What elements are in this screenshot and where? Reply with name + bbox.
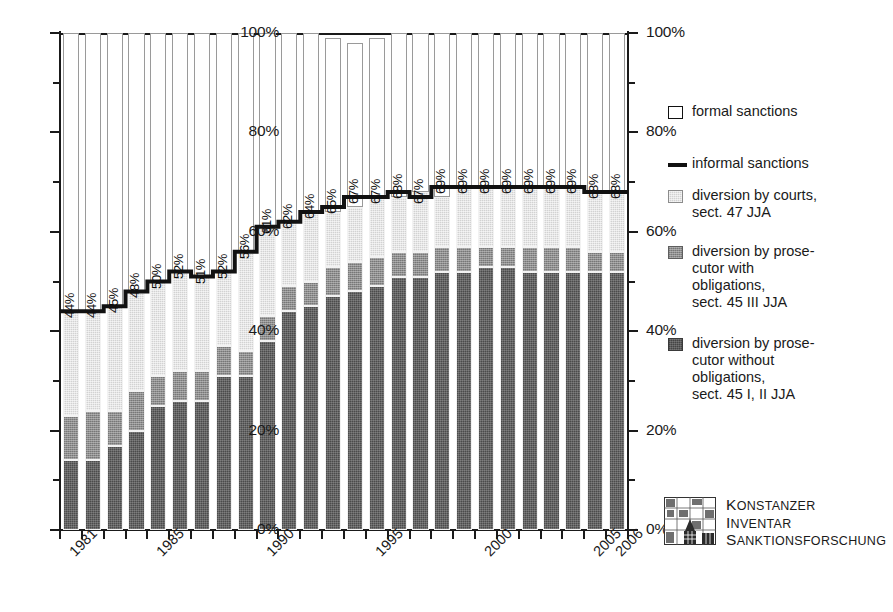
x-tick-21 <box>518 530 520 539</box>
legend-item-without[interactable]: diversion by prose-cutor withoutobligati… <box>668 335 815 403</box>
y-tick-left-60 <box>50 231 59 233</box>
diversion-with-obligations-swatch <box>668 246 683 259</box>
y-tick-right-80 <box>629 131 638 133</box>
y-minor-tick-right-50 <box>629 281 635 283</box>
segment-by_courts-2005 <box>587 192 603 252</box>
segment-by_courts-1992 <box>303 212 319 282</box>
segment-by_courts-1993 <box>325 212 341 267</box>
segment-formal-1981 <box>63 33 79 311</box>
y-tick-right-40 <box>629 330 638 332</box>
legend-label-line: formal sanctions <box>692 103 798 120</box>
step-value-label-1992: 64% <box>302 194 317 219</box>
segment-with_obligations-2003 <box>543 247 559 272</box>
x-tick-18 <box>452 530 454 539</box>
segment-with_obligations-1999 <box>456 247 472 272</box>
segment-without_obligations-1981 <box>63 460 79 530</box>
x-tick-3 <box>125 530 127 539</box>
y-axis-label-right-100: 100% <box>646 23 685 41</box>
segment-with_obligations-1986 <box>172 371 188 401</box>
segment-with_obligations-1982 <box>85 411 101 461</box>
bar-1981 <box>63 33 79 530</box>
segment-with_obligations-1992 <box>303 282 319 307</box>
segment-without_obligations-1992 <box>303 306 319 530</box>
legend-label-with: diversion by prose-cutor withobligations… <box>692 243 815 311</box>
step-value-label-1988: 52% <box>215 253 230 278</box>
y-tick-left-20 <box>50 430 59 432</box>
segment-without_obligations-2006 <box>609 272 625 530</box>
segment-without_obligations-1997 <box>412 277 428 530</box>
y-tick-right-100 <box>629 32 638 34</box>
bar-1999 <box>456 33 472 530</box>
segment-formal-2002 <box>522 33 538 187</box>
segment-by_courts-1985 <box>150 282 166 376</box>
y-tick-left-40 <box>50 330 59 332</box>
step-value-label-2001: 69% <box>499 169 514 194</box>
y-tick-left-80 <box>50 131 59 133</box>
informal-sanctions-swatch <box>668 163 687 167</box>
bar-1988 <box>216 33 232 530</box>
y-axis-label-left-100: 100% <box>240 23 279 41</box>
segment-by_courts-1986 <box>172 272 188 371</box>
segment-without_obligations-1982 <box>85 460 101 530</box>
step-value-label-1999: 69% <box>455 169 470 194</box>
segment-by_courts-1984 <box>128 291 144 390</box>
bar-1983 <box>107 33 123 530</box>
segment-formal-1986 <box>172 33 188 272</box>
legend-item-formal[interactable]: formal sanctions <box>668 103 798 120</box>
y-tick-left-100 <box>50 32 59 34</box>
segment-without_obligations-2005 <box>587 272 603 530</box>
segment-without_obligations-1984 <box>128 431 144 530</box>
step-value-label-2004: 69% <box>564 169 579 194</box>
segment-formal-1989 <box>238 33 254 252</box>
segment-formal-1984 <box>128 33 144 291</box>
bar-1996 <box>391 33 407 530</box>
legend-label-line: obligations, <box>692 277 815 294</box>
segment-with_obligations-1988 <box>216 346 232 376</box>
x-tick-13 <box>343 530 345 539</box>
logo-line-rest: ONSTANZER <box>737 499 816 513</box>
step-value-label-2003: 69% <box>543 169 558 194</box>
segment-formal-1993 <box>325 38 341 212</box>
bar-1998 <box>434 33 450 530</box>
legend-item-with[interactable]: diversion by prose-cutor withobligations… <box>668 243 815 311</box>
x-tick-8 <box>234 530 236 539</box>
y-minor-tick-left-70 <box>53 181 59 183</box>
x-tick-23 <box>561 530 563 539</box>
segment-by_courts-1994 <box>347 207 363 262</box>
plot-area: 44%44%45%48%50%52%51%52%56%61%62%64%65%6… <box>60 33 628 530</box>
step-value-label-1991: 62% <box>280 204 295 229</box>
segment-formal-1983 <box>107 33 123 306</box>
segment-formal-1995 <box>369 38 385 197</box>
segment-without_obligations-1989 <box>238 376 254 530</box>
segment-by_courts-1988 <box>216 272 232 347</box>
segment-without_obligations-1996 <box>391 277 407 530</box>
legend-label-line: cutor without <box>692 352 815 369</box>
segment-by_courts-1991 <box>281 222 297 287</box>
segment-without_obligations-2001 <box>500 267 516 530</box>
segment-formal-1987 <box>194 33 210 277</box>
legend-item-courts[interactable]: diversion by courts,sect. 47 JJA <box>668 187 817 221</box>
y-minor-tick-right-10 <box>629 479 635 481</box>
legend-label-line: informal sanctions <box>692 155 809 172</box>
step-value-label-1996: 68% <box>390 174 405 199</box>
segment-without_obligations-1995 <box>369 286 385 530</box>
legend-label-line: informal sanctions <box>692 155 809 172</box>
bar-2004 <box>565 33 581 530</box>
step-value-label-1983: 45% <box>106 288 121 313</box>
segment-with_obligations-1997 <box>412 252 428 277</box>
segment-formal-2003 <box>543 33 559 187</box>
step-value-label-1981: 44% <box>62 293 77 318</box>
bar-1992 <box>303 33 319 530</box>
step-value-label-1986: 52% <box>171 253 186 278</box>
y-axis-label-left-60: 60% <box>249 222 279 240</box>
diversion-by-courts-swatch <box>668 190 683 203</box>
step-value-label-1994: 67% <box>346 179 361 204</box>
segment-by_courts-1990 <box>259 227 275 316</box>
bar-1990 <box>259 33 275 530</box>
segment-with_obligations-2005 <box>587 252 603 272</box>
chart-root: 44%44%45%48%50%52%51%52%56%61%62%64%65%6… <box>0 0 893 612</box>
kis-logo-mark <box>664 497 716 545</box>
y-tick-left-0 <box>50 529 59 531</box>
segment-without_obligations-2004 <box>565 272 581 530</box>
legend-item-line[interactable]: informal sanctions <box>668 155 809 172</box>
